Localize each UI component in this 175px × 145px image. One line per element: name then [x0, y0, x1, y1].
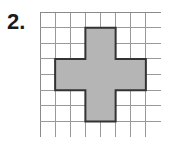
cross-shape-polygon: [55, 28, 146, 122]
question-number-label: 2.: [7, 11, 25, 33]
grid-with-cross-figure: [40, 12, 161, 137]
grid-area: [40, 12, 161, 137]
figure-panel: 2.: [0, 0, 175, 145]
